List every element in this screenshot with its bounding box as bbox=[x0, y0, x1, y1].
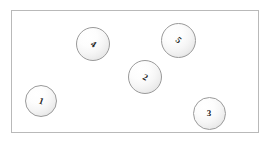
sphere-4[interactable]: 4 bbox=[76, 27, 110, 61]
sphere-label: 2 bbox=[141, 72, 149, 82]
sphere-2[interactable]: 2 bbox=[128, 60, 162, 94]
sphere-label: 5 bbox=[173, 35, 182, 45]
sphere-label: 1 bbox=[37, 96, 44, 106]
sphere-3[interactable]: 3 bbox=[193, 97, 226, 130]
sphere-label: 4 bbox=[89, 39, 98, 49]
diagram-canvas: 14253 bbox=[0, 0, 273, 145]
sphere-label: 3 bbox=[207, 109, 212, 118]
sphere-5[interactable]: 5 bbox=[161, 23, 196, 58]
sphere-1[interactable]: 1 bbox=[25, 85, 57, 117]
